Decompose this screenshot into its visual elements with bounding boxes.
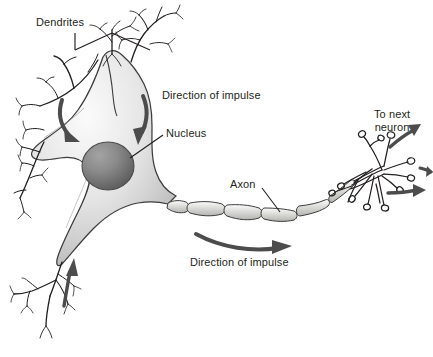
impulse-arrow-lower-left: [64, 258, 78, 306]
label-direction-of-impulse-top: Direction of impulse: [162, 89, 261, 102]
impulse-arrow-terminal-right: [388, 184, 426, 197]
impulse-arrow-axon: [196, 234, 292, 254]
label-to-next-neuron: To nextneuron: [374, 108, 410, 134]
neuron-diagram: Dendrites Direction of impulse Nucleus A…: [0, 0, 433, 357]
axon-terminals: [328, 129, 415, 211]
axon: [167, 169, 372, 221]
label-axon: Axon: [230, 178, 255, 191]
impulse-arrow-terminal-right-2: [420, 166, 433, 177]
dendrite-upper-right: [116, 5, 183, 62]
label-to-next-neuron-line1: To next: [374, 108, 410, 120]
dendrite-left: [14, 121, 48, 219]
label-dendrites: Dendrites: [36, 16, 84, 29]
label-direction-of-impulse-bottom: Direction of impulse: [190, 256, 289, 269]
nucleus: [82, 142, 134, 190]
label-nucleus: Nucleus: [166, 127, 206, 140]
label-to-next-neuron-line2: neuron: [375, 121, 410, 133]
neuron-illustration: [0, 0, 433, 357]
